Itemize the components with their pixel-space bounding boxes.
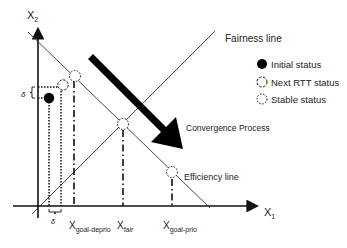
x-tick-fair: Xfair xyxy=(117,220,134,233)
y-axis-label: X2 xyxy=(27,9,38,23)
next-status-point xyxy=(58,80,68,90)
legend-next-label: Next RTT status xyxy=(271,77,340,88)
legend: Initial status Next RTT status Stable st… xyxy=(257,59,340,105)
convergence-diagram: δ δ X2 X1 Xgoal-deprio Xfair Xgoal-prio … xyxy=(0,0,347,248)
efficiency-line-label: Efficiency line xyxy=(184,172,239,182)
convergence-arrow-icon xyxy=(82,54,183,149)
delta-bracket-horizontal xyxy=(49,209,61,214)
stable-status-point-1 xyxy=(70,71,81,82)
stable-status-point-prio xyxy=(167,167,178,178)
x-tick-goal-deprio: Xgoal-deprio xyxy=(69,220,111,234)
initial-status-point xyxy=(44,93,54,103)
convergence-process-label: Convergence Process xyxy=(186,123,270,133)
x-tick-goal-prio: Xgoal-prio xyxy=(163,220,197,234)
fairness-line-label: Fairness line xyxy=(225,33,282,44)
delta-label-vertical: δ xyxy=(21,90,26,99)
delta-bracket-vertical xyxy=(30,87,35,98)
x-axis-label: X1 xyxy=(264,206,275,220)
legend-initial-label: Initial status xyxy=(271,59,321,70)
legend-initial-icon xyxy=(257,59,267,69)
delta-label-horizontal: δ xyxy=(51,218,55,225)
legend-next-icon xyxy=(257,77,267,87)
stable-status-point-fair xyxy=(118,119,129,130)
legend-stable-label: Stable status xyxy=(271,94,326,105)
legend-stable-icon xyxy=(257,94,267,104)
